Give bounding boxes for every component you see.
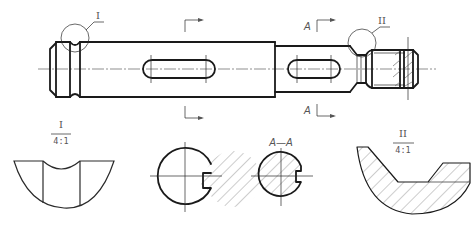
detail-1-outline — [14, 161, 114, 208]
detail-circle-2 — [348, 29, 376, 57]
left-groove-top — [70, 42, 80, 45]
section-a-a-label: A—A — [268, 137, 293, 148]
section-label-bottom: A — [303, 105, 311, 116]
detail-1-label: I — [59, 119, 63, 130]
shaft-main-view: I II A A — [38, 10, 436, 120]
section-label-top: A — [303, 21, 311, 32]
detail-2-label: II — [399, 128, 407, 139]
detail-marker-2: II — [378, 15, 386, 26]
detail-2-scale: 4:1 — [395, 145, 410, 155]
detail-1-scale: 4:1 — [53, 136, 68, 146]
technical-drawing: I II A A I 4:1 A—A — [0, 0, 475, 229]
left-groove-bottom — [70, 94, 80, 97]
section-cut-top-a — [317, 20, 334, 32]
detail-view-1: I 4:1 — [14, 119, 114, 208]
detail-circle-1 — [61, 24, 89, 52]
section-view-1 — [150, 142, 261, 212]
detail-view-2: II 4:1 — [357, 128, 470, 214]
detail-marker-1: I — [96, 10, 100, 21]
section-cut-bottom-left — [185, 106, 202, 118]
section-cut-bottom-a — [317, 104, 334, 116]
section-cut-top-left — [185, 20, 202, 32]
section-view-a-a: A—A — [251, 137, 313, 206]
